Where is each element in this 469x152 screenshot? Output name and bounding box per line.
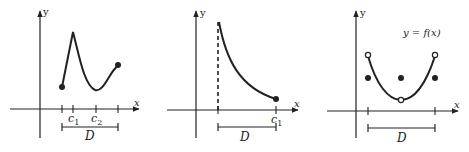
tick-label-c2: c2	[91, 112, 102, 127]
filled-point-left	[365, 75, 371, 81]
filled-point-right	[432, 75, 438, 81]
x-axis-label: x	[134, 97, 140, 108]
panel-2: y x c1 D	[167, 7, 300, 144]
panel-3: y x D y = f(x)	[327, 7, 460, 145]
tick-label-c1: c1	[68, 112, 79, 127]
y-axis-label: y	[42, 6, 49, 17]
endpoint-filled-right	[115, 62, 121, 68]
open-circle-right	[432, 52, 437, 57]
domain-label: D	[396, 131, 407, 145]
y-axis-label: y	[199, 7, 206, 18]
x-axis-label: x	[454, 99, 460, 110]
domain-label: D	[84, 129, 95, 143]
function-curve	[219, 22, 276, 99]
filled-point-middle	[398, 75, 404, 81]
tick-label-c1: c1	[271, 113, 282, 128]
y-axis-label: y	[359, 7, 366, 18]
open-circle-vertex	[398, 97, 403, 102]
function-label: y = f(x)	[402, 27, 441, 38]
domain-label: D	[239, 130, 250, 144]
function-curve	[62, 32, 118, 90]
open-circle-left	[365, 52, 370, 57]
panel-1: y x c1 c2 D	[10, 6, 140, 143]
endpoint-filled-left	[59, 84, 65, 90]
figure: y x c1 c2 D y x	[0, 0, 469, 152]
endpoint-filled-right	[273, 96, 279, 102]
x-axis-label: x	[294, 98, 300, 109]
